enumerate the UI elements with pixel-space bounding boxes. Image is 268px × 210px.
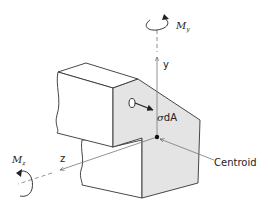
moment-z-label: Mz	[11, 154, 26, 166]
centroid-label: Centroid	[214, 157, 257, 168]
stress-element-label: σσdAdA	[157, 112, 177, 123]
y-axis-label: y	[163, 59, 169, 70]
moment-y-icon	[146, 14, 169, 30]
moment-z-icon	[16, 169, 33, 196]
diagram-canvas: y z Centroid σσdAdA My Mz	[0, 0, 268, 210]
moment-y-label: My	[175, 20, 190, 33]
area-element-icon	[129, 99, 135, 108]
centroid-dot	[155, 135, 159, 139]
beam-diagram: y z Centroid σσdAdA My Mz	[0, 0, 268, 210]
z-axis-dashed	[18, 173, 52, 184]
z-axis-label: z	[60, 153, 65, 164]
